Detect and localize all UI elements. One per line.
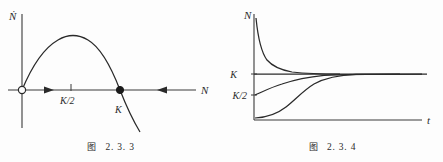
flow-arrow-right-icon — [44, 86, 54, 93]
flow-arrow-left-icon — [157, 86, 167, 93]
figure-panel-2-3-3: Ṅ N K/2 K 图2. 3. 3 — [0, 0, 222, 162]
tick-label-k-over-2: K/2 — [59, 95, 74, 106]
caption-number: 2. 3. 3 — [105, 142, 134, 152]
caption-cjk-label: 图 — [87, 142, 96, 152]
caption-cjk-label: 图 — [309, 142, 318, 152]
figure-caption-2-3-4: 图2. 3. 4 — [222, 140, 443, 153]
growth-rate-curve — [22, 36, 140, 133]
figure-sheet: Ṅ N K/2 K 图2. 3. 3 — [0, 0, 443, 162]
curve-sigmoid-from-near-zero — [255, 74, 422, 118]
tick-label-k: K — [229, 69, 238, 80]
equilibrium-origin-open-circle-icon — [18, 86, 25, 93]
tick-label-k: K — [114, 104, 123, 115]
equilibrium-k-filled-circle-icon — [116, 86, 123, 93]
figure-caption-2-3-3: 图2. 3. 3 — [0, 140, 222, 153]
phase-line-plot: Ṅ N K/2 K — [0, 0, 222, 138]
tick-label-k-over-2: K/2 — [232, 90, 247, 101]
caption-number: 2. 3. 4 — [327, 142, 356, 152]
figure-panel-2-3-4: N t K K/2 图2. 3. 4 — [222, 0, 443, 162]
y-axis-label: Ṅ — [8, 10, 17, 22]
x-axis-label: N — [200, 84, 209, 96]
x-axis-label: t — [427, 114, 431, 126]
curve-rise-from-k-over-2 — [255, 74, 400, 95]
curve-decay-from-above — [256, 18, 340, 74]
y-axis-label: N — [243, 9, 252, 21]
time-series-plot: N t K K/2 — [222, 0, 443, 138]
